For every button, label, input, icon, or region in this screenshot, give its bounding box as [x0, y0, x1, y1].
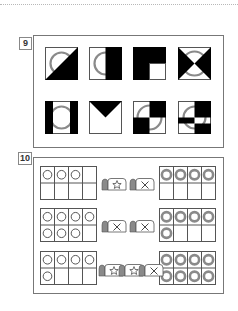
section-number-10: 10 [18, 152, 32, 165]
ten-frame-right [159, 166, 216, 200]
ten-frame-left [40, 166, 97, 200]
dotted-divider [0, 4, 238, 5]
ten-frame-right [159, 208, 216, 242]
tile-6[interactable] [89, 101, 122, 134]
ten-frame-right [159, 251, 216, 285]
tile-5[interactable] [45, 101, 78, 134]
cross-card-icon[interactable] [129, 177, 155, 191]
star-card-icon[interactable] [101, 177, 127, 191]
tile-8[interactable] [178, 101, 211, 134]
cross-card-icon[interactable] [101, 219, 127, 233]
tile-4[interactable] [178, 47, 211, 80]
tile-2[interactable] [89, 47, 122, 80]
cross-card-icon[interactable] [138, 263, 164, 277]
ten-frame-left [40, 208, 97, 242]
tile-1[interactable] [45, 47, 78, 80]
tile-7[interactable] [133, 101, 166, 134]
ten-frame-left [40, 251, 97, 285]
cross-card-icon[interactable] [129, 219, 155, 233]
section-number-9: 9 [19, 37, 32, 50]
tile-3[interactable] [133, 47, 166, 80]
